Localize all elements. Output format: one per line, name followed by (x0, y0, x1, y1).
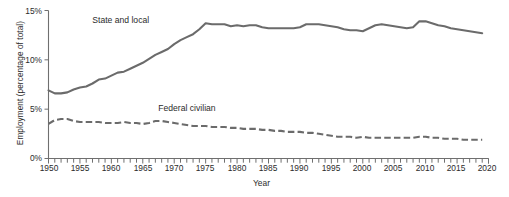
x-tick-label-1990: 1990 (284, 163, 314, 173)
series-group (49, 21, 483, 139)
axes-group (45, 11, 489, 164)
x-tick-label-1950: 1950 (34, 163, 64, 173)
x-tick-label-1970: 1970 (159, 163, 189, 173)
y-tick-label-15: 15% (0, 6, 42, 16)
y-tick-label-10: 10% (0, 55, 42, 65)
series-line-state-and-local (49, 21, 483, 93)
x-tick-label-1960: 1960 (96, 163, 126, 173)
x-tick-label-1995: 1995 (316, 163, 346, 173)
x-tick-label-2010: 2010 (410, 163, 440, 173)
series-line-federal-civilian (49, 119, 483, 140)
x-axis-title: Year (253, 178, 270, 188)
y-axis-title: Employment (percentage of total) (14, 4, 28, 162)
y-tick-label-5: 5% (0, 104, 42, 114)
series-label-federal-civilian: Federal civilian (158, 103, 215, 113)
y-tick-label-0: 0% (0, 153, 42, 163)
x-tick-label-1965: 1965 (128, 163, 158, 173)
series-label-state-and-local: State and local (92, 15, 149, 25)
x-tick-label-1985: 1985 (253, 163, 283, 173)
x-tick-label-2005: 2005 (378, 163, 408, 173)
x-tick-label-1975: 1975 (190, 163, 220, 173)
axis-spine (49, 11, 489, 159)
x-tick-label-1980: 1980 (222, 163, 252, 173)
x-tick-label-1955: 1955 (65, 163, 95, 173)
x-tick-label-2020: 2020 (472, 163, 502, 173)
chart-container: Employment (percentage of total) 15% 10%… (0, 0, 509, 197)
x-tick-label-2000: 2000 (347, 163, 377, 173)
x-tick-label-2015: 2015 (441, 163, 471, 173)
